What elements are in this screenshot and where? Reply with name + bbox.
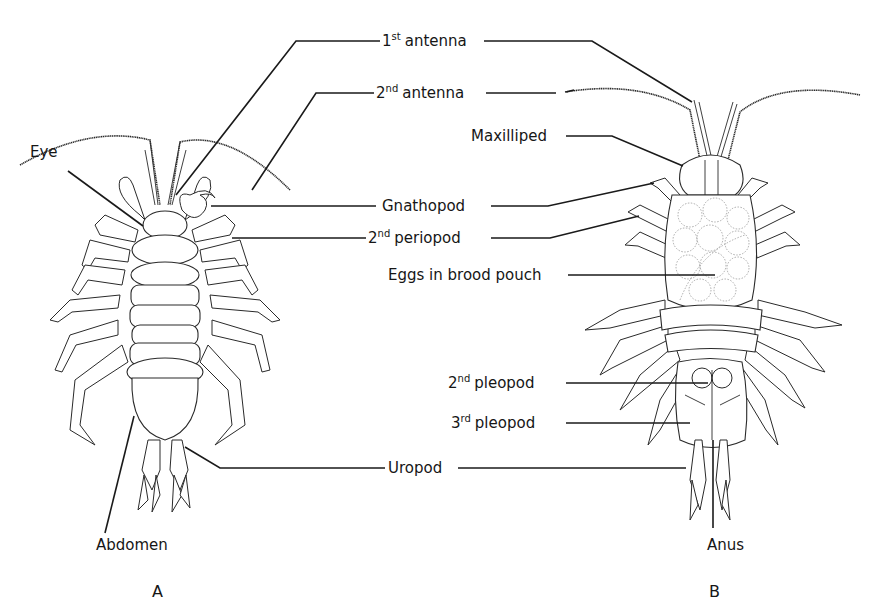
- panel-label-a: A: [152, 582, 163, 601]
- label-maxilliped: Maxilliped: [471, 127, 547, 145]
- label-eye: Eye: [30, 143, 58, 161]
- label-third-pleopod: 3rdpleopod: [451, 413, 535, 432]
- isopod-anatomy-figure: 1stantenna 2ndantenna Eye Maxilliped Gna…: [0, 0, 878, 610]
- label-anus: Anus: [707, 536, 744, 554]
- label-second-pleopod: 2ndpleopod: [448, 373, 535, 392]
- leader-first-antenna: [176, 41, 380, 195]
- specimen-a-dorsal: [20, 136, 290, 512]
- label-uropod: Uropod: [388, 459, 442, 477]
- label-eggs-in-brood-pouch: Eggs in brood pouch: [388, 266, 542, 284]
- label-abdomen: Abdomen: [96, 536, 168, 554]
- label-second-periopod: 2ndperiopod: [368, 228, 461, 247]
- panel-label-b: B: [709, 582, 720, 601]
- label-gnathopod: Gnathopod: [382, 197, 465, 215]
- label-first-antenna: 1stantenna: [382, 31, 467, 50]
- label-second-antenna: 2ndantenna: [376, 83, 464, 102]
